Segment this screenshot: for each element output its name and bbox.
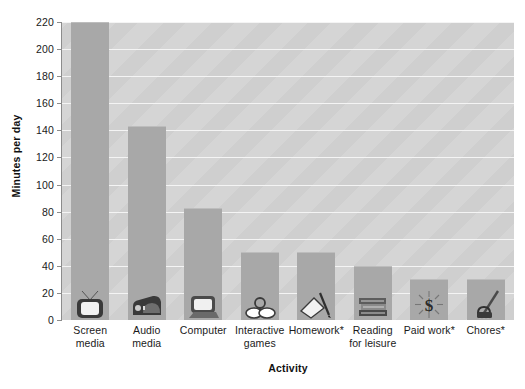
y-tick-label-100: 100 [36,179,54,191]
y-tick-mark-160 [57,103,62,104]
x-axis-tick-labels: ScreenmediaAudiomediaComputerInteractive… [62,324,514,358]
bar-slot [62,22,119,320]
bar [128,126,166,320]
bar [241,252,279,320]
bar-slot [288,22,345,320]
bar [297,252,335,320]
bar-slot [345,22,402,320]
bar-slot: $ [401,22,458,320]
y-tick-label-0: 0 [48,314,54,326]
x-tick-label-line: games [226,337,295,350]
y-tick-mark-220 [57,22,62,23]
y-tick-label-160: 160 [36,97,54,109]
y-tick-mark-0 [57,320,62,321]
y-tick-mark-20 [57,293,62,294]
bar-series: $ [62,22,514,320]
y-tick-mark-140 [57,130,62,131]
y-tick-mark-200 [57,49,62,50]
bar-slot [458,22,515,320]
x-tick-label-line: Chores* [452,324,521,337]
bar [410,279,448,320]
y-tick-label-220: 220 [36,16,54,28]
y-tick-label-20: 20 [42,287,54,299]
x-tick-label: Chores* [452,324,521,337]
y-tick-mark-40 [57,266,62,267]
x-tick-label-line: for leisure [339,337,408,350]
plot-area: $ [62,22,514,320]
bar-slot [232,22,289,320]
y-axis-title: Minutes per day [10,96,22,216]
y-tick-mark-60 [57,239,62,240]
y-tick-label-60: 60 [42,233,54,245]
y-tick-mark-100 [57,185,62,186]
bar [184,208,222,320]
y-tick-mark-80 [57,212,62,213]
y-tick-label-180: 180 [36,70,54,82]
x-axis-title: Activity [62,362,514,374]
bar-slot [175,22,232,320]
y-tick-mark-120 [57,157,62,158]
bar-chart-figure: $ 020406080100120140160180200220 Minutes… [0,0,525,389]
y-tick-label-120: 120 [36,151,54,163]
bar [71,22,109,320]
bar [354,266,392,320]
bar-slot [119,22,176,320]
y-tick-label-200: 200 [36,43,54,55]
bar [467,279,505,320]
y-tick-mark-180 [57,76,62,77]
x-tick-label-line: media [113,337,182,350]
y-tick-label-40: 40 [42,260,54,272]
y-tick-label-80: 80 [42,206,54,218]
y-tick-label-140: 140 [36,124,54,136]
